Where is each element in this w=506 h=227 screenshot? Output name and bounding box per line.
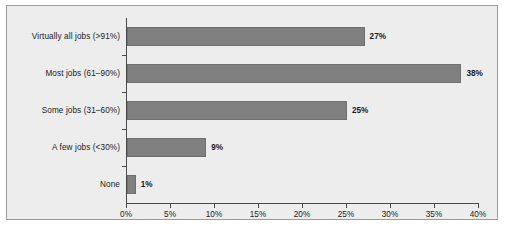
x-axis-tick-label: 15% xyxy=(238,211,278,219)
category-label: None xyxy=(11,181,120,189)
category-label: Most jobs (61–90%) xyxy=(11,70,120,78)
x-axis-tick xyxy=(478,204,479,208)
x-axis-tick-label: 30% xyxy=(370,211,410,219)
bar-value-label: 38% xyxy=(466,70,482,78)
x-axis-tick xyxy=(302,204,303,208)
x-axis-tick xyxy=(126,204,127,208)
x-axis-tick xyxy=(214,204,215,208)
bar-value-label: 25% xyxy=(352,107,368,115)
y-axis-tick xyxy=(122,55,126,56)
bar xyxy=(127,101,347,120)
x-axis-tick xyxy=(258,204,259,208)
x-axis-tick-label: 20% xyxy=(282,211,322,219)
bar xyxy=(127,64,461,83)
y-axis-tick xyxy=(122,166,126,167)
category-label: A few jobs (<30%) xyxy=(11,144,120,152)
y-axis-tick xyxy=(122,129,126,130)
category-label: Some jobs (31–60%) xyxy=(11,107,120,115)
x-axis-tick xyxy=(434,204,435,208)
bar-chart-plot: Virtually all jobs (>91%)Most jobs (61–9… xyxy=(7,6,497,219)
x-axis-tick xyxy=(346,204,347,208)
x-axis-tick-label: 10% xyxy=(194,211,234,219)
x-axis-tick-label: 40% xyxy=(458,211,498,219)
chart-frame: Virtually all jobs (>91%)Most jobs (61–9… xyxy=(6,5,498,220)
x-axis-tick-label: 5% xyxy=(150,211,190,219)
x-axis-tick-label: 0% xyxy=(106,211,146,219)
x-axis-tick xyxy=(170,204,171,208)
bar xyxy=(127,27,365,46)
bar-value-label: 1% xyxy=(141,181,153,189)
x-axis-tick-label: 35% xyxy=(414,211,454,219)
bar-value-label: 27% xyxy=(370,33,386,41)
bar xyxy=(127,138,206,157)
x-axis-tick-label: 25% xyxy=(326,211,366,219)
y-axis-tick xyxy=(122,92,126,93)
category-label: Virtually all jobs (>91%) xyxy=(11,33,120,41)
bar-value-label: 9% xyxy=(211,144,223,152)
x-axis-tick xyxy=(390,204,391,208)
bar xyxy=(127,175,136,194)
